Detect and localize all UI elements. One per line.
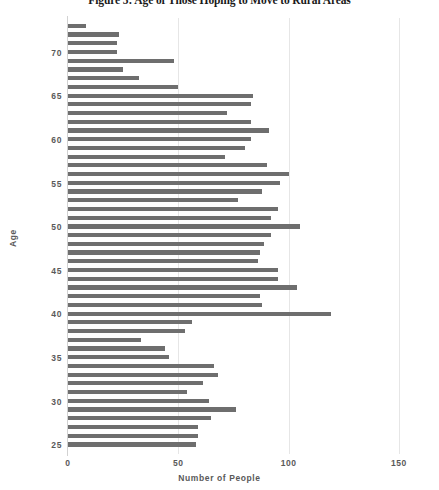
bar-row: [68, 249, 410, 258]
y-tick-label-55: 55: [28, 179, 62, 189]
bar-row: [68, 406, 410, 415]
y-axis-title: Age: [8, 213, 18, 263]
bar-row: [68, 136, 410, 145]
bar: [68, 399, 209, 403]
bar: [68, 425, 198, 429]
bar: [68, 442, 196, 446]
bar-row: [68, 232, 410, 241]
bar-row: [68, 40, 410, 49]
y-tick-label-50: 50: [28, 222, 62, 232]
x-tick-label-100: 100: [269, 458, 309, 468]
bar-row: [68, 171, 410, 180]
bar-row: [68, 48, 410, 57]
bar-row: [68, 240, 410, 249]
bar: [68, 259, 258, 263]
bar: [68, 364, 214, 368]
bar: [68, 41, 117, 45]
bar: [68, 189, 262, 193]
bar-row: [68, 371, 410, 380]
bar-row: [68, 205, 410, 214]
bar: [68, 312, 331, 316]
y-tick-label-25: 25: [28, 440, 62, 450]
bar-row: [68, 109, 410, 118]
bar-row: [68, 284, 410, 293]
bar-row: [68, 188, 410, 197]
x-tick-label-150: 150: [379, 458, 419, 468]
bar-row: [68, 266, 410, 275]
chart-title: Figure 5: Age of Those Hoping to Move to…: [0, 0, 439, 6]
bar: [68, 111, 227, 115]
x-tick-label-50: 50: [158, 458, 198, 468]
bar: [68, 76, 139, 80]
bar-series: [68, 18, 410, 454]
bar-row: [68, 397, 410, 406]
bar: [68, 303, 262, 307]
bar-row: [68, 92, 410, 101]
bar: [68, 32, 119, 36]
bar: [68, 59, 174, 63]
bar: [68, 268, 278, 272]
bar-row: [68, 362, 410, 371]
bar-row: [68, 83, 410, 92]
bar: [68, 128, 269, 132]
bar: [68, 242, 264, 246]
bar: [68, 434, 198, 438]
bar-row: [68, 127, 410, 136]
bar: [68, 250, 260, 254]
bar-row: [68, 327, 410, 336]
bar: [68, 277, 278, 281]
bar: [68, 137, 251, 141]
bar: [68, 224, 300, 228]
bar-row: [68, 31, 410, 40]
bar-row: [68, 118, 410, 127]
y-tick-label-40: 40: [28, 309, 62, 319]
bar-row: [68, 336, 410, 345]
y-tick-label-35: 35: [28, 353, 62, 363]
x-axis-title: Number of People: [0, 473, 439, 483]
bar-row: [68, 354, 410, 363]
bar-row: [68, 415, 410, 424]
bar-row: [68, 144, 410, 153]
bar: [68, 172, 289, 176]
bar: [68, 216, 271, 220]
bar: [68, 285, 297, 289]
bar-row: [68, 441, 410, 450]
x-tick-label-0: 0: [48, 458, 88, 468]
bar: [68, 146, 245, 150]
bar: [68, 407, 236, 411]
bar-row: [68, 57, 410, 66]
bar-row: [68, 319, 410, 328]
y-tick-label-65: 65: [28, 91, 62, 101]
bar: [68, 94, 253, 98]
y-tick-label-30: 30: [28, 397, 62, 407]
bar-row: [68, 75, 410, 84]
bar-row: [68, 162, 410, 171]
y-tick-label-70: 70: [28, 48, 62, 58]
bar-row: [68, 310, 410, 319]
bar: [68, 198, 238, 202]
y-axis-ticks: 25303540455055606570: [22, 0, 62, 490]
bar: [68, 85, 178, 89]
bar: [68, 355, 169, 359]
bar: [68, 233, 271, 237]
bar: [68, 329, 185, 333]
bar: [68, 67, 123, 71]
figure-container: Figure 5: Age of Those Hoping to Move to…: [0, 0, 439, 490]
bar: [68, 50, 117, 54]
bar: [68, 416, 211, 420]
bar-row: [68, 258, 410, 267]
bar: [68, 24, 86, 28]
bar-row: [68, 214, 410, 223]
bar: [68, 373, 218, 377]
bar-row: [68, 432, 410, 441]
bar-row: [68, 301, 410, 310]
bar: [68, 102, 251, 106]
y-tick-label-60: 60: [28, 135, 62, 145]
bar-row: [68, 345, 410, 354]
bar-row: [68, 197, 410, 206]
bar-row: [68, 179, 410, 188]
bar: [68, 155, 225, 159]
bar-row: [68, 101, 410, 110]
bar-row: [68, 22, 410, 31]
bar-row: [68, 153, 410, 162]
